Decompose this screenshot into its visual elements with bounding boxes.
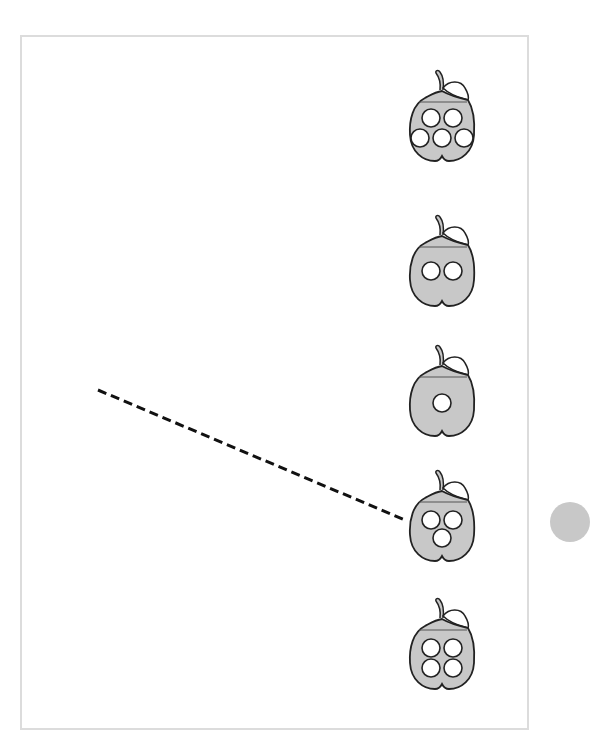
apple-3-dots[interactable] — [407, 460, 477, 570]
apple-5-dots[interactable] — [407, 60, 477, 170]
apple-2-dots[interactable] — [407, 205, 477, 315]
apple-icon — [407, 460, 477, 570]
apple-1-dots[interactable] — [407, 335, 477, 445]
apple-icon — [407, 205, 477, 315]
partial-circle-edge — [550, 502, 590, 542]
apple-icon — [407, 335, 477, 445]
apple-icon — [407, 60, 477, 170]
apple-icon — [407, 588, 477, 698]
apple-4-dots[interactable] — [407, 588, 477, 698]
